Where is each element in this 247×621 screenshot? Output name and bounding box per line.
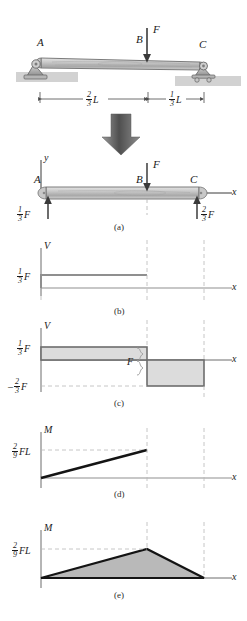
reaction-label-c: 2 3 F xyxy=(201,206,214,223)
panel-d-moment xyxy=(41,428,232,490)
axis-label-x-a: x xyxy=(232,186,236,197)
beam-pin-hole-right xyxy=(200,192,203,195)
reaction-a-denominator: 3 xyxy=(17,215,23,223)
shear-value-label-negative-c: – 2 3 F xyxy=(8,378,27,395)
moment-curve-d xyxy=(41,450,147,478)
shear-pos-symbol-b: F xyxy=(24,271,30,282)
panel-caption-a: (a) xyxy=(114,222,124,232)
shear-pos-denominator-c: 3 xyxy=(17,349,23,357)
shear-neg-denominator: 3 xyxy=(14,387,20,395)
panel-b-shear xyxy=(41,240,232,302)
moment-peak-denominator-e: 9 xyxy=(12,551,18,559)
axis-label-x-e: x xyxy=(232,571,236,582)
axis-label-v-b: V xyxy=(44,240,50,251)
label-point-c-fbd: C xyxy=(190,173,197,185)
shear-block-negative xyxy=(147,360,204,386)
beam-body-fbd xyxy=(46,187,199,199)
panel-e-moment xyxy=(41,522,232,588)
shear-neg-symbol: F xyxy=(21,381,27,392)
moment-peak-symbol-d: FL xyxy=(19,446,31,457)
label-point-a-fbd: A xyxy=(34,173,41,185)
panel-caption-e: (e) xyxy=(114,590,124,600)
shear-curve-b xyxy=(41,275,147,288)
axis-label-m-d: M xyxy=(44,424,52,435)
panel-caption-d: (d) xyxy=(114,489,125,499)
moment-peak-label-e: 2 9 FL xyxy=(12,542,31,559)
panel-caption-c: (c) xyxy=(114,398,124,408)
dim-left-denominator: 3 xyxy=(86,100,92,108)
shear-pos-denominator-b: 3 xyxy=(17,277,23,285)
roller-wheel-left xyxy=(195,78,199,82)
label-point-b-top: B xyxy=(136,33,143,45)
reaction-c-denominator: 3 xyxy=(201,215,207,223)
beam-pin-hole-left xyxy=(43,192,46,195)
beam-body xyxy=(41,58,200,70)
panel-c-shear xyxy=(41,320,232,398)
dim-right-denominator: 3 xyxy=(169,100,175,108)
axis-label-v-c: V xyxy=(44,320,50,331)
dim-right-symbol: L xyxy=(176,94,182,105)
axis-label-x-b: x xyxy=(232,281,236,292)
axis-label-x-d: x xyxy=(232,471,236,482)
reaction-a-symbol: F xyxy=(24,209,30,220)
label-point-b-fbd: B xyxy=(136,173,143,185)
transition-arrow xyxy=(102,114,140,155)
label-load-f-fbd: F xyxy=(153,158,160,170)
roller-wheel-right xyxy=(207,78,211,82)
label-point-a-top: A xyxy=(37,36,44,48)
dim-left-symbol: L xyxy=(93,94,99,105)
shear-jump-label: F xyxy=(127,356,133,367)
dimension-label-left: 2 3 L xyxy=(86,91,99,108)
reaction-label-a: 1 3 F xyxy=(17,206,30,223)
jump-brace-lower xyxy=(137,361,143,375)
shear-pos-symbol-c: F xyxy=(24,343,30,354)
moment-peak-label-d: 2 9 FL xyxy=(12,443,31,460)
shear-value-label-positive-c: 1 3 F xyxy=(17,340,30,357)
moment-area-e xyxy=(41,549,204,578)
axis-label-m-e: M xyxy=(44,522,52,533)
reaction-c-symbol: F xyxy=(208,209,214,220)
shear-value-label-b: 1 3 F xyxy=(17,268,30,285)
axis-label-x-c: x xyxy=(232,353,236,364)
moment-peak-symbol-e: FL xyxy=(19,545,31,556)
beam-shear-moment-figure: A B C F 2 3 L 1 3 L y A B C F x 1 3 F 2 … xyxy=(0,0,247,621)
label-load-f-top: F xyxy=(153,23,160,35)
moment-peak-denominator-d: 9 xyxy=(12,452,18,460)
panel-pictorial-beam xyxy=(16,28,241,103)
dimension-label-right: 1 3 L xyxy=(169,91,182,108)
axis-label-y-a: y xyxy=(44,152,48,163)
panel-caption-b: (b) xyxy=(114,306,125,316)
label-point-c-top: C xyxy=(199,38,206,50)
shear-neg-sign: – xyxy=(8,381,13,392)
